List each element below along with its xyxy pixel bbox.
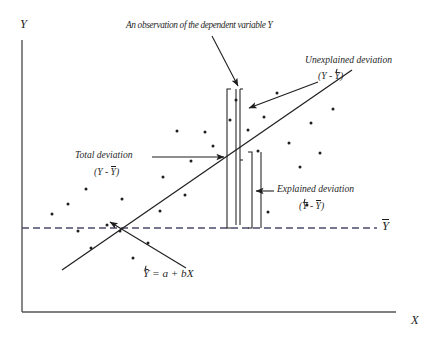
mean-line-label: Y: [382, 220, 389, 233]
unexplained-formula-suffix: ): [340, 70, 343, 81]
unexplained-annotation-title: Unexplained deviation: [305, 55, 392, 65]
figure-canvas: [0, 0, 438, 346]
x-axis-label: X: [411, 314, 419, 327]
regression-equation-yhat: Y: [143, 268, 149, 280]
regression-equation-leader-arrow: [110, 222, 186, 268]
total-formula-suffix: ): [116, 166, 119, 177]
regression-deviation-figure: Y X Y An observation of the dependent va…: [0, 0, 438, 346]
total-deviation-bracket: [227, 89, 231, 228]
explained-formula-mid: -: [308, 200, 316, 211]
explained-formula-var1: Y: [302, 201, 307, 211]
total-formula-prefix: (Y -: [94, 166, 111, 177]
unexplained-leader-arrow: [249, 82, 318, 108]
regression-equation-rest: = a + bX: [149, 267, 193, 279]
observation-leader-arrow: [212, 36, 238, 86]
total-annotation-formula: (Y - Y): [94, 167, 119, 177]
y-axis-label: Y: [20, 18, 27, 31]
explained-annotation-title: Explained deviation: [277, 184, 354, 194]
observation-annotation: An observation of the dependent variable…: [126, 21, 272, 31]
explained-formula-var2: Y: [316, 201, 321, 211]
explained-formula-suffix: ): [321, 200, 324, 211]
unexplained-annotation-formula: (Y - Y): [318, 71, 343, 81]
unexplained-deviation-bracket: [236, 89, 243, 225]
mean-line-label-text: Y: [382, 220, 389, 233]
unexplained-formula-var: Y: [335, 71, 340, 81]
explained-annotation-formula: (Y - Y): [299, 201, 324, 211]
explained-deviation-bracket: [248, 152, 261, 228]
total-annotation-title: Total deviation: [75, 150, 132, 160]
total-formula-var: Y: [111, 167, 116, 177]
regression-equation-label: Y = a + bX: [143, 268, 194, 280]
unexplained-formula-prefix: (Y -: [318, 70, 335, 81]
